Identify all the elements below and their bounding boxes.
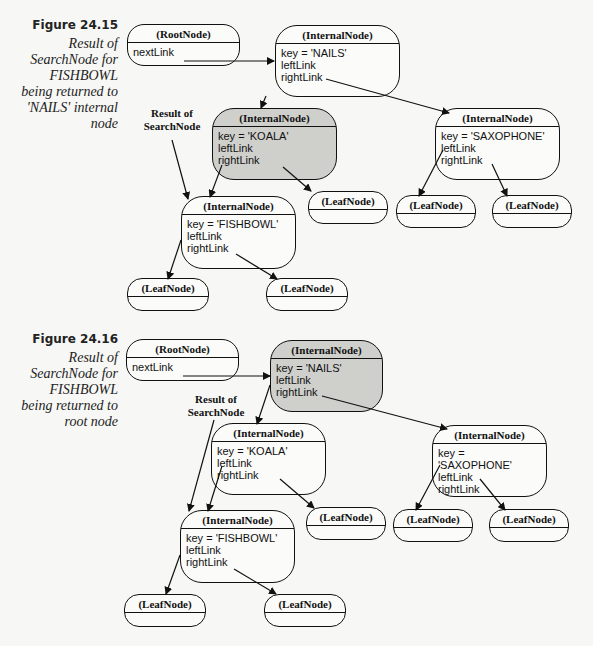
- link-arrows: [0, 0, 593, 646]
